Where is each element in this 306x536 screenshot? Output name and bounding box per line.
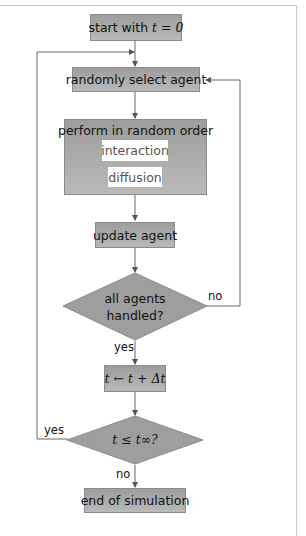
select-agent-box: randomly select agent [72, 67, 200, 92]
perform-label: perform in random order [58, 123, 213, 138]
decision1-no-label: no [208, 289, 222, 303]
increment-label: t ← t + Δt [105, 371, 166, 386]
decision1-label: all agents handled? [95, 290, 175, 324]
start-box: start with t = 0 [90, 14, 182, 41]
update-agent-box: update agent [95, 222, 175, 248]
decision2-label: t ≤ t∞? [95, 431, 175, 448]
increment-box: t ← t + Δt [104, 365, 166, 392]
start-math: t = 0 [152, 20, 183, 35]
interaction-item: interaction [102, 140, 168, 161]
decision1-line1: all agents [95, 290, 175, 307]
decision2-yes-label: yes [44, 423, 64, 437]
end-box: end of simulation [84, 488, 186, 513]
start-prefix: start with [89, 20, 149, 35]
decision2-no-label: no [116, 467, 130, 481]
decision1-line2: handled? [95, 307, 175, 324]
diffusion-item: diffusion [108, 167, 162, 187]
select-agent-label: randomly select agent [66, 72, 207, 87]
update-agent-label: update agent [93, 228, 177, 243]
decision1-yes-label: yes [114, 340, 134, 354]
end-label: end of simulation [81, 493, 190, 508]
